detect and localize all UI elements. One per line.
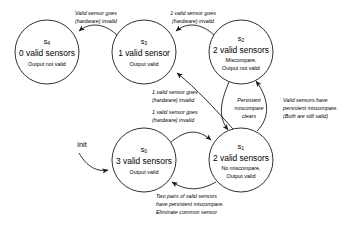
edge-s3-to-s4 — [79, 25, 117, 35]
edge-s0-to-s1 — [170, 132, 211, 143]
edge-label-s1-to-s0-line2: Eliminate common sensor. — [156, 209, 218, 215]
state-title-s3: 1 valid sensor — [118, 48, 170, 58]
edge-label-s1-to-s0-line0: Two pairs of valid sensors — [156, 193, 217, 199]
node-s0[interactable]: s0 3 valid sensors Output valid — [112, 128, 176, 192]
state-detail-s2-0: Miscompare, — [226, 57, 257, 63]
edge-label-s0-to-s1-line1: (hardware) invalid — [152, 117, 195, 123]
state-title-s1: 2 valid sensors — [213, 153, 269, 163]
state-detail-s1-0: No miscompare, — [221, 165, 261, 171]
state-detail-s1-1: Output valid — [227, 173, 256, 179]
edge-label-s2-to-s1-line0: Persistent — [237, 97, 261, 103]
edge-label-s1-to-s3-line1: (hardware) invalid — [152, 97, 195, 103]
edge-label-s2-to-s3-line1: (hardware) invalid — [172, 18, 215, 24]
node-s4[interactable]: s4 0 valid sensors Output not valid — [15, 20, 79, 84]
node-s2[interactable]: s2 2 valid sensors Miscompare, Output no… — [209, 20, 273, 84]
edge-label-s1-to-s0-line1: have persistent miscompare. — [156, 201, 224, 207]
edge-label-s0-to-s1-line0: 1 valid sensor goes — [152, 109, 198, 115]
edge-init-to-s0 — [79, 153, 108, 170]
edge-label-s3-to-s4-line1: (hardware) invalid — [75, 18, 118, 24]
state-title-s2: 2 valid sensors — [213, 45, 269, 55]
edge-label-s2-to-s1-line2: clears — [242, 113, 256, 119]
init-label: init — [77, 140, 86, 149]
edge-label-s1-to-s2-line2: (Both are still valid) — [283, 113, 328, 119]
state-detail-s0-0: Output valid — [130, 169, 159, 175]
edge-label-s1-to-s2-line1: persistent miscompare. — [282, 105, 338, 111]
node-s3[interactable]: s3 1 valid sensor Output valid — [112, 20, 176, 84]
state-detail-s3-0: Output valid — [130, 61, 159, 67]
edge-label-s2-to-s1-line1: miscompare — [235, 105, 264, 111]
edge-label-s1-to-s3-line0: 1 valid sensor goes — [152, 89, 198, 95]
edge-label-s1-to-s2-line0: Valid sensors have — [283, 97, 328, 103]
state-detail-s2-1: Output not valid — [222, 65, 260, 71]
edge-label-s2-to-s3-line0: 1 valid sensor goes — [170, 10, 216, 16]
state-machine-diagram: init s4 0 valid sensors Output not valid… — [0, 0, 354, 226]
state-title-s0: 3 valid sensors — [116, 156, 172, 166]
edge-label-s3-to-s4-line0: Valid sensor goes — [75, 10, 117, 16]
state-diagram-canvas: init s4 0 valid sensors Output not valid… — [0, 0, 354, 226]
node-s1[interactable]: s1 2 valid sensors No miscompare, Output… — [209, 128, 273, 192]
edge-s1-to-s0 — [172, 182, 216, 189]
state-detail-s4-0: Output not valid — [28, 61, 66, 67]
state-title-s4: 0 valid sensors — [19, 48, 75, 58]
edge-s2-to-s3 — [176, 25, 214, 35]
